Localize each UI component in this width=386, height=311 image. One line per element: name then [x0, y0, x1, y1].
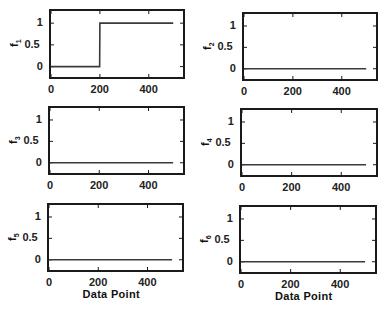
- xtick-label: 0: [238, 278, 244, 290]
- ylabel-main: f: [198, 239, 210, 243]
- ytick-label: 0.5: [214, 233, 229, 245]
- plot-area: [0, 0, 386, 311]
- ylabel: f6: [198, 235, 212, 243]
- ytick-label: 0: [227, 255, 233, 267]
- ytick-label: 1: [227, 212, 233, 224]
- xtick-label: 200: [281, 278, 299, 290]
- ylabel-subscript: 6: [205, 235, 212, 239]
- xtick-label: 400: [331, 278, 349, 290]
- xlabel: Data Point: [275, 290, 332, 302]
